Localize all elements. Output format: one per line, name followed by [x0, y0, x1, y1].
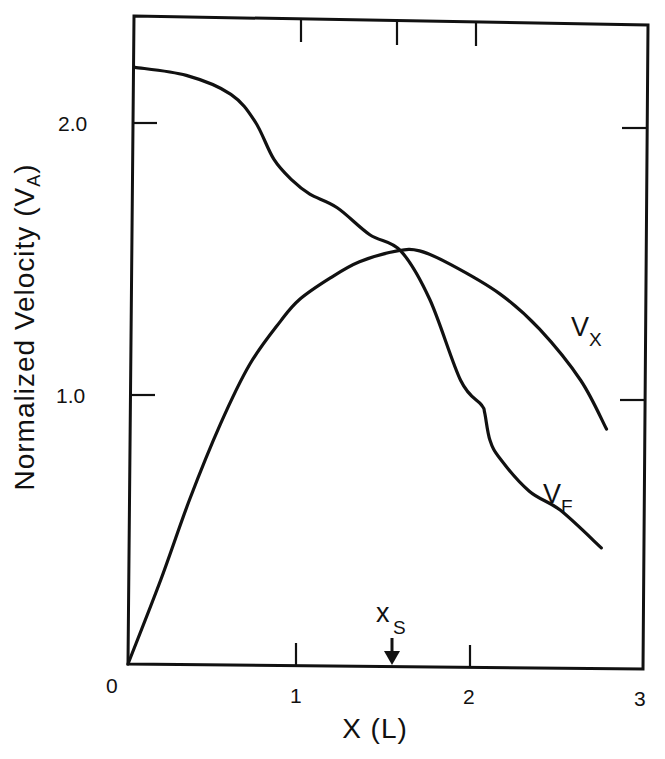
xs-marker: x S [376, 598, 406, 665]
xs-label-sub: S [393, 617, 406, 638]
vf-label-sub: F [561, 496, 573, 517]
x-axis-title: X (L) [342, 713, 408, 744]
vf-label-main: V [543, 479, 561, 509]
x-tick-label-3: 3 [634, 687, 646, 710]
series-vx-curve [128, 249, 607, 664]
y-tick-label-2: 2.0 [58, 112, 87, 135]
x-tick-label-2: 2 [463, 685, 475, 708]
down-arrow-icon [384, 651, 400, 665]
y-axis-title-main: Normalized Velocity (V [9, 187, 40, 491]
x-tick-label-1: 1 [290, 684, 302, 707]
chart-canvas: 2.0 1.0 0 1 2 3 X (L) Normalized Velocit… [0, 0, 665, 759]
figure: 2.0 1.0 0 1 2 3 X (L) Normalized Velocit… [0, 0, 665, 759]
x-tick-label-0: 0 [106, 674, 118, 697]
y-axis-title-text: Normalized Velocity (VA) [9, 164, 44, 491]
y-tick-label-1: 1.0 [56, 384, 85, 407]
xs-label-main: x [376, 598, 390, 628]
series-vf-label: V F [543, 479, 573, 517]
vx-label-main: V [571, 312, 589, 342]
y-axis-title-sub: A [24, 174, 44, 187]
series-vx-label: V X [571, 312, 602, 350]
y-axis-title: Normalized Velocity (VA) [9, 164, 44, 491]
y-axis-title-end: ) [9, 164, 40, 174]
plot-frame [128, 16, 648, 669]
vx-label-sub: X [589, 329, 602, 350]
series-vf-curve [135, 67, 601, 548]
